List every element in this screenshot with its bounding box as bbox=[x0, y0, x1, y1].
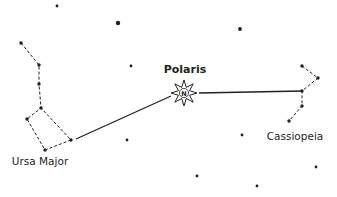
star bbox=[300, 104, 303, 107]
star bbox=[315, 166, 318, 169]
star bbox=[19, 41, 22, 44]
star bbox=[25, 117, 28, 120]
compass-star-icon: N bbox=[171, 80, 197, 106]
north-letter: N bbox=[181, 90, 186, 98]
cassiopeia-label: Cassiopeia bbox=[267, 131, 324, 142]
star bbox=[37, 63, 40, 66]
star bbox=[300, 64, 303, 67]
star bbox=[196, 175, 199, 178]
star bbox=[39, 106, 42, 109]
star bbox=[116, 21, 120, 25]
star bbox=[256, 185, 259, 188]
star bbox=[69, 138, 72, 141]
cassiopeia-constellation bbox=[287, 64, 319, 122]
star bbox=[287, 119, 290, 122]
star bbox=[37, 82, 40, 85]
ursa-major-constellation bbox=[19, 41, 72, 151]
star bbox=[238, 27, 242, 31]
star bbox=[126, 139, 129, 142]
star bbox=[43, 148, 46, 151]
star bbox=[316, 76, 319, 79]
ursa-major-label: Ursa Major bbox=[12, 156, 68, 167]
star bbox=[130, 65, 133, 68]
star bbox=[241, 134, 244, 137]
star-map: N bbox=[0, 0, 337, 197]
polaris-label: Polaris bbox=[164, 64, 207, 75]
star bbox=[56, 5, 59, 8]
